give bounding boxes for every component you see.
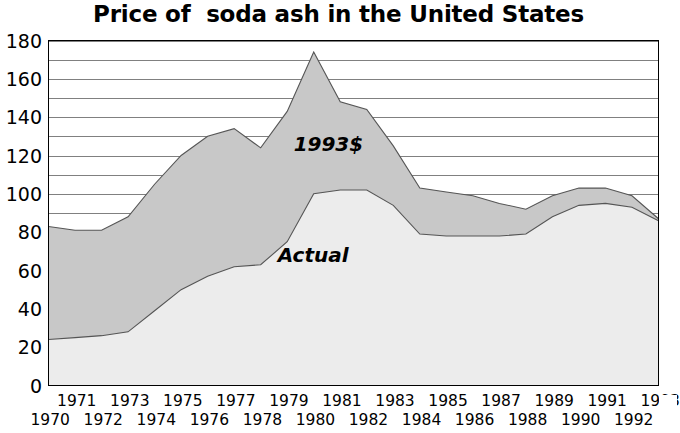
x-axis-tick-label: 1975 [163,394,202,410]
x-axis-tick-label: 1976 [190,413,229,429]
x-axis-tick-label: 1987 [481,394,520,410]
x-axis-tick-label: 1981 [322,394,361,410]
x-axis-tick-label: 1984 [402,413,441,429]
x-axis-tick-label: 1970 [31,413,70,429]
x-axis-tick-label: 1985 [428,394,467,410]
y-axis-tick-label: 40 [0,300,42,319]
x-axis-tick-label: 1978 [243,413,282,429]
x-axis-tick-label: 1974 [137,413,176,429]
y-axis-tick-label: 60 [0,262,42,281]
x-axis-tick-label: 1989 [534,394,573,410]
x-axis-tick-label: 1986 [455,413,494,429]
y-axis-tick-label: 0 [0,377,42,396]
y-axis-tick-label: 100 [0,185,42,204]
x-axis-tick-label: 1983 [375,394,414,410]
x-axis-tick-label: 1971 [57,394,96,410]
x-axis-tick-label: 1972 [84,413,123,429]
x-axis-tick-label: 1991 [587,394,626,410]
series-areas [49,52,659,386]
y-axis-tick-label: 120 [0,147,42,166]
x-axis-tick-label: 1992 [614,413,653,429]
right-edge-mask [659,395,677,433]
x-axis-tick-label: 1990 [561,413,600,429]
series-label-actual: Actual [278,243,349,267]
x-axis-tick-label: 1982 [349,413,388,429]
x-axis-tick-label: 1980 [296,413,335,429]
x-axis-tick-label: 1977 [216,394,255,410]
series-label-deflated: 1993$ [294,132,364,156]
y-axis-tick-label: 140 [0,108,42,127]
y-axis-tick-label: 160 [0,70,42,89]
x-axis-tick-label: 1973 [110,394,149,410]
y-axis-tick-label: 20 [0,338,42,357]
y-axis-tick-label: 180 [0,32,42,51]
y-axis-tick-label: 80 [0,223,42,242]
x-axis-tick-label: 1979 [269,394,308,410]
x-axis-tick-label: 1988 [508,413,547,429]
